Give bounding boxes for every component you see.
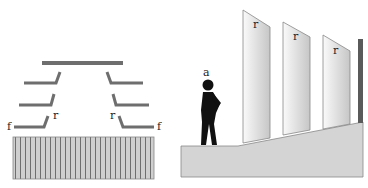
right-fin-3 bbox=[119, 116, 154, 127]
label-person: a bbox=[203, 66, 210, 79]
plan-view: f r r f bbox=[7, 61, 162, 179]
end-post bbox=[358, 39, 363, 123]
label-f-left: f bbox=[7, 120, 12, 133]
label-fin-2: r bbox=[293, 30, 299, 43]
left-fin-1 bbox=[24, 72, 60, 83]
person-icon bbox=[201, 80, 221, 146]
sloped-base bbox=[181, 122, 363, 177]
label-fin-1: r bbox=[253, 18, 259, 31]
label-r-right: r bbox=[110, 109, 116, 122]
top-bar bbox=[42, 61, 123, 65]
elevation-view: r r r a bbox=[181, 10, 363, 177]
diagram-canvas: f r r f r r r a bbox=[0, 0, 368, 188]
right-fin-1 bbox=[107, 72, 143, 83]
label-fin-3: r bbox=[333, 44, 339, 57]
striped-wall bbox=[13, 137, 154, 179]
label-r-left: r bbox=[53, 109, 59, 122]
left-fin-3 bbox=[14, 116, 48, 127]
left-fin-2 bbox=[19, 94, 54, 105]
right-fin-2 bbox=[113, 94, 149, 105]
label-f-right: f bbox=[157, 120, 162, 133]
